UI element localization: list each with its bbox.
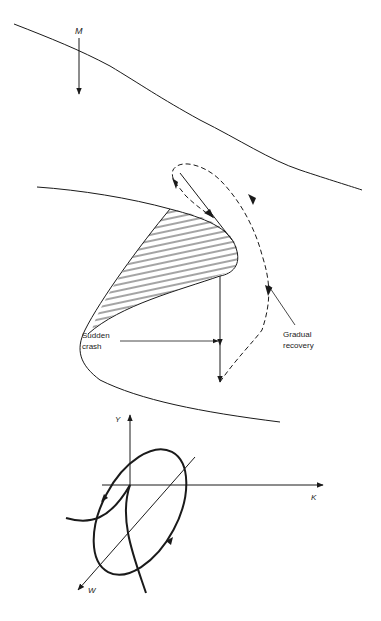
recovery-arrow-4: [204, 209, 214, 218]
y-axis-label: Y: [115, 415, 121, 424]
top-surface-curve: [14, 24, 362, 190]
recovery-arrow-1: [265, 285, 272, 296]
gradual-recovery-label-2: recovery: [283, 341, 314, 350]
gradual-recovery-leader: [268, 285, 295, 325]
sudden-crash-label-2: crash: [82, 342, 102, 351]
trajectory-bottom: [126, 485, 146, 593]
recovery-arrow-2: [248, 194, 256, 205]
k-axis-label: K: [311, 493, 317, 502]
catastrophe-diagram: M Sudden crash Gradual recovery Y K W: [0, 0, 381, 621]
recovery-arrow-3: [172, 178, 178, 189]
w-axis-label: W: [88, 586, 97, 595]
limit-cycle-ellipse: [75, 434, 206, 590]
m-label: M: [75, 26, 83, 36]
gradual-recovery-label-1: Gradual: [283, 330, 312, 339]
hatched-region: [80, 200, 250, 340]
sudden-crash-label-1: Sudden: [82, 331, 110, 340]
